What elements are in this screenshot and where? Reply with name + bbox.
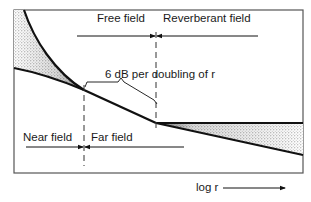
- far-field-label: Far field: [91, 132, 133, 144]
- free-field-label: Free field: [97, 13, 145, 25]
- near-field-label: Near field: [23, 132, 72, 144]
- slope-brace: [85, 78, 157, 104]
- reverberant-field-label: Reverberant field: [163, 13, 251, 25]
- slope-label: 6 dB per doubling of r: [105, 69, 215, 81]
- x-axis-label: log r: [196, 182, 218, 194]
- plot-frame: [14, 10, 303, 173]
- diagram-canvas: [0, 0, 311, 202]
